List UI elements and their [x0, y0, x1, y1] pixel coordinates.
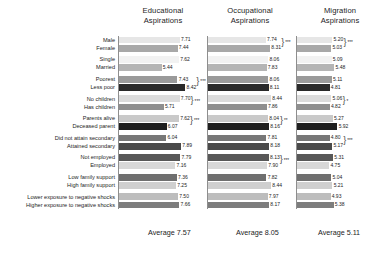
bar-educational	[118, 37, 180, 44]
bar-value-migration: 5.92	[339, 123, 349, 130]
significance-stars: ***	[284, 158, 289, 163]
bar-educational	[118, 182, 176, 189]
bar-migration	[296, 143, 332, 150]
column-title-educational: Educational Aspirations	[122, 6, 204, 25]
bar-migration	[296, 56, 332, 63]
category-label: Deceased parent	[0, 123, 118, 129]
bar-occupational	[207, 154, 269, 161]
bar-value-migration: 5.27	[334, 115, 344, 122]
column-title-migration: Migration Aspirations	[296, 6, 384, 25]
significance-bracket: }	[343, 137, 346, 144]
bar-value-educational: 7.36	[178, 174, 188, 181]
bar-migration	[296, 135, 330, 142]
bar-migration	[296, 182, 332, 189]
category-label: Lower exposure to negative shocks	[0, 194, 118, 200]
bar-value-educational: 7.66	[180, 201, 190, 208]
bar-value-educational: 6.04	[168, 134, 178, 141]
significance-stars: ***	[347, 40, 352, 45]
bar-occupational	[207, 64, 267, 71]
significance-bracket: }	[190, 117, 193, 124]
average-migration: Average 5.11	[318, 228, 360, 238]
category-label: Has children	[0, 104, 118, 110]
significance-stars: ***	[200, 79, 205, 84]
bar-occupational	[207, 135, 266, 142]
bar-value-educational: 8.42	[187, 84, 197, 91]
bar-value-migration: 4.93	[332, 193, 342, 200]
category-label: Not employed	[0, 154, 118, 160]
bar-value-occupational: 7.82	[268, 174, 278, 181]
bar-value-educational: 7.16	[176, 162, 186, 169]
bar-value-migration: 5.06	[333, 95, 343, 102]
bar-educational	[118, 202, 179, 209]
bar-migration	[296, 95, 331, 102]
bar-value-educational: 7.89	[182, 142, 192, 149]
significance-stars: ***	[195, 99, 200, 104]
bar-value-migration: 5.09	[333, 56, 343, 63]
significance-stars: **	[284, 118, 288, 123]
bar-value-occupational: 8.31	[271, 44, 281, 51]
axis-line-occupational	[207, 36, 208, 209]
significance-stars: *	[346, 99, 348, 104]
bar-value-migration: 5.11	[333, 76, 342, 83]
bar-value-educational: 7.71	[181, 36, 191, 43]
bar-value-occupational: 7.86	[268, 103, 278, 110]
bar-value-occupational: 8.06	[269, 76, 279, 83]
category-label: High family support	[0, 182, 118, 188]
bar-migration	[296, 76, 332, 83]
category-label: Less poor	[0, 84, 118, 90]
column-title-educational-line1: Educational	[122, 6, 204, 16]
average-educational: Average 7.57	[148, 228, 191, 238]
bar-migration	[296, 123, 337, 130]
bar-value-educational: 6.07	[168, 123, 178, 130]
category-label: Attained secondary	[0, 143, 118, 149]
bar-migration	[296, 64, 334, 71]
bar-value-occupational: 8.06	[269, 56, 279, 63]
bar-migration	[296, 45, 331, 52]
bar-educational	[118, 193, 178, 200]
bar-value-educational: 7.62	[180, 56, 190, 63]
bar-educational	[118, 104, 164, 111]
significance-bracket: }	[343, 39, 346, 46]
column-title-migration-line2: Aspirations	[296, 16, 384, 26]
category-label: Parents alive	[0, 115, 118, 121]
bar-migration	[296, 37, 332, 44]
bar-occupational	[207, 76, 268, 83]
bar-value-occupational: 7.97	[269, 193, 279, 200]
axis-line-migration	[296, 36, 297, 209]
bar-value-occupational: 7.83	[268, 64, 278, 71]
bar-occupational	[207, 37, 266, 44]
bar-educational	[118, 64, 162, 71]
bar-value-migration: 5.03	[332, 44, 342, 51]
bar-value-educational: 7.79	[182, 154, 192, 161]
category-label: Did not attain secondary	[0, 135, 118, 141]
axis-line-educational	[118, 36, 119, 209]
bar-occupational	[207, 45, 270, 52]
significance-bracket: }	[280, 156, 283, 163]
category-label: Married	[0, 64, 118, 70]
bar-value-occupational: 8.04	[269, 115, 279, 122]
average-occupational: Average 8.05	[236, 228, 279, 238]
column-title-occupational: Occupational Aspirations	[207, 6, 293, 25]
bar-occupational	[207, 174, 266, 181]
bar-occupational	[207, 84, 269, 91]
category-label: Low family support	[0, 174, 118, 180]
bar-value-occupational: 8.11	[270, 84, 279, 91]
bar-occupational	[207, 104, 267, 111]
significance-stars: ***	[347, 138, 352, 143]
bar-migration	[296, 202, 334, 209]
bar-value-migration: 5.04	[332, 174, 342, 181]
bar-value-migration: 5.21	[334, 182, 344, 189]
bar-value-educational: 5.44	[163, 64, 173, 71]
bar-occupational	[207, 162, 267, 169]
bar-value-occupational: 8.44	[272, 182, 282, 189]
significance-bracket: }	[191, 97, 194, 104]
bar-value-migration: 4.82	[331, 103, 341, 110]
bar-educational	[118, 162, 175, 169]
bar-value-occupational: 7.81	[268, 134, 278, 141]
bar-educational	[118, 115, 179, 122]
bar-migration	[296, 193, 331, 200]
bar-value-occupational: 7.74	[267, 36, 277, 43]
bar-occupational	[207, 56, 268, 63]
bar-educational	[118, 56, 179, 63]
bar-value-migration: 5.17	[333, 142, 343, 149]
